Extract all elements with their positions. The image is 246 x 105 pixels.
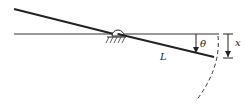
left-rod: [14, 9, 114, 34]
length-label: L: [159, 51, 167, 62]
x-dimension: [223, 34, 233, 58]
displacement-label: x: [235, 37, 241, 48]
angle-label: θ: [200, 38, 206, 49]
ground-hatching: [106, 37, 125, 43]
lever-diagram: θ x L: [0, 0, 246, 105]
theta-arrow: [193, 34, 199, 53]
